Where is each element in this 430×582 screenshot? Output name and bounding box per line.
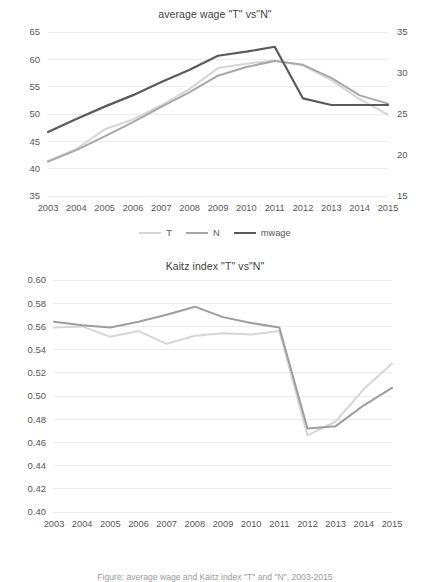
x-axis-tick: 2009 bbox=[208, 203, 229, 213]
legend-label: T bbox=[166, 228, 172, 238]
x-axis-tick: 2011 bbox=[265, 203, 285, 213]
x-axis-tick: 2006 bbox=[123, 203, 144, 213]
y-axis-tick-right: 25 bbox=[397, 108, 408, 119]
x-axis-tick: 2004 bbox=[72, 519, 93, 529]
legend-label: mwage bbox=[261, 228, 291, 238]
y-axis-tick-left: 60 bbox=[29, 54, 40, 65]
x-axis-tick: 2011 bbox=[269, 519, 289, 529]
chart2-plot: 0.400.420.440.460.480.500.520.540.560.58… bbox=[0, 252, 430, 537]
y-axis-tick-left: 0.56 bbox=[28, 321, 47, 332]
y-axis-tick-left: 0.42 bbox=[28, 483, 47, 494]
x-axis-tick: 2004 bbox=[66, 203, 87, 213]
x-axis-tick: 2015 bbox=[382, 519, 403, 529]
chart-average-wage: average wage "T" vs"N" 35404550556065152… bbox=[0, 0, 430, 248]
x-axis-tick: 2007 bbox=[156, 519, 177, 529]
y-axis-tick-right: 15 bbox=[397, 190, 408, 201]
y-axis-tick-left: 35 bbox=[29, 190, 40, 201]
y-axis-tick-left: 65 bbox=[29, 26, 40, 37]
y-axis-tick-left: 40 bbox=[29, 163, 40, 174]
y-axis-tick-left: 0.40 bbox=[28, 506, 47, 517]
legend-swatch-icon bbox=[186, 232, 208, 234]
y-axis-tick-left: 0.54 bbox=[28, 344, 47, 355]
y-axis-tick-left: 0.50 bbox=[28, 390, 47, 401]
x-axis-tick: 2010 bbox=[241, 519, 262, 529]
y-axis-tick-left: 50 bbox=[29, 108, 40, 119]
x-axis-tick: 2013 bbox=[325, 519, 346, 529]
x-axis-tick: 2014 bbox=[349, 203, 370, 213]
x-axis-tick: 2009 bbox=[213, 519, 234, 529]
y-axis-tick-left: 0.60 bbox=[28, 274, 47, 285]
chart1-legend: TNmwage bbox=[0, 228, 430, 238]
y-axis-tick-left: 0.46 bbox=[28, 437, 47, 448]
x-axis-tick: 2012 bbox=[293, 203, 314, 213]
legend-swatch-icon bbox=[234, 232, 256, 234]
x-axis-tick: 2003 bbox=[44, 519, 65, 529]
x-axis-tick: 2007 bbox=[151, 203, 172, 213]
legend-swatch-icon bbox=[139, 232, 161, 234]
x-axis-tick: 2003 bbox=[38, 203, 59, 213]
legend-item-N[interactable]: N bbox=[186, 228, 220, 238]
chart1-plot: 3540455055606515202530352003200420052006… bbox=[0, 0, 430, 222]
series-line-N bbox=[48, 61, 388, 162]
x-axis-tick: 2008 bbox=[179, 203, 200, 213]
x-axis-tick: 2015 bbox=[378, 203, 399, 213]
x-axis-tick: 2010 bbox=[236, 203, 257, 213]
legend-item-mwage[interactable]: mwage bbox=[234, 228, 291, 238]
x-axis-tick: 2013 bbox=[321, 203, 342, 213]
y-axis-tick-right: 20 bbox=[397, 149, 408, 160]
y-axis-tick-right: 35 bbox=[397, 26, 408, 37]
x-axis-tick: 2012 bbox=[297, 519, 318, 529]
y-axis-tick-right: 30 bbox=[397, 67, 408, 78]
figure-caption: Figure: average wage and Kaitz index "T"… bbox=[0, 572, 430, 582]
legend-item-T[interactable]: T bbox=[139, 228, 172, 238]
chart-kaitz-index: Kaitz index "T" vs"N" 0.400.420.440.460.… bbox=[0, 252, 430, 552]
x-axis-tick: 2014 bbox=[353, 519, 374, 529]
y-axis-tick-left: 0.52 bbox=[28, 367, 47, 378]
y-axis-tick-left: 0.48 bbox=[28, 414, 47, 425]
y-axis-tick-left: 45 bbox=[29, 136, 40, 147]
y-axis-tick-left: 0.58 bbox=[28, 298, 47, 309]
x-axis-tick: 2008 bbox=[184, 519, 205, 529]
y-axis-tick-left: 0.44 bbox=[28, 460, 47, 471]
figure-container: average wage "T" vs"N" 35404550556065152… bbox=[0, 0, 430, 582]
y-axis-tick-left: 55 bbox=[29, 81, 40, 92]
legend-label: N bbox=[213, 228, 220, 238]
x-axis-tick: 2006 bbox=[128, 519, 149, 529]
series-line-N bbox=[54, 307, 392, 429]
x-axis-tick: 2005 bbox=[100, 519, 121, 529]
x-axis-tick: 2005 bbox=[94, 203, 115, 213]
